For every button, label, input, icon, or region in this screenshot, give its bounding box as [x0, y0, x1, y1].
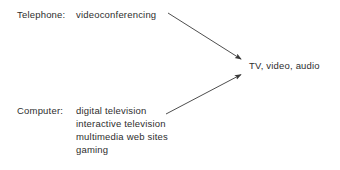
telephone-group-label: Telephone: [17, 8, 76, 21]
computer-item-multimedia-web-sites: multimedia web sites [76, 130, 168, 143]
convergence-diagram: Telephone: videoconferencing Computer: d… [0, 0, 340, 170]
computer-item-interactive-television: interactive television [76, 117, 168, 130]
arrow-computer-to-target [166, 75, 241, 114]
computer-row: Computer: digital television interactive… [17, 104, 168, 156]
source-group-telephone: Telephone: videoconferencing [17, 8, 156, 21]
convergence-target-label: TV, video, audio [249, 59, 320, 72]
source-group-computer: Computer: digital television interactive… [17, 104, 168, 156]
computer-group-label: Computer: [17, 104, 76, 117]
arrow-telephone-to-target [168, 13, 241, 59]
computer-item-digital-television: digital television [76, 104, 168, 117]
computer-item-gaming: gaming [76, 143, 168, 156]
telephone-item-videoconferencing: videoconferencing [76, 8, 156, 21]
computer-item-list: digital television interactive televisio… [76, 104, 168, 156]
telephone-row: Telephone: videoconferencing [17, 8, 156, 21]
